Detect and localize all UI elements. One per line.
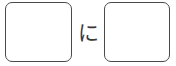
answer-box-left[interactable] [5, 2, 72, 62]
particle-ni-text: に [72, 13, 104, 53]
answer-box-right[interactable] [104, 2, 170, 62]
exercise-canvas: に [0, 0, 176, 66]
